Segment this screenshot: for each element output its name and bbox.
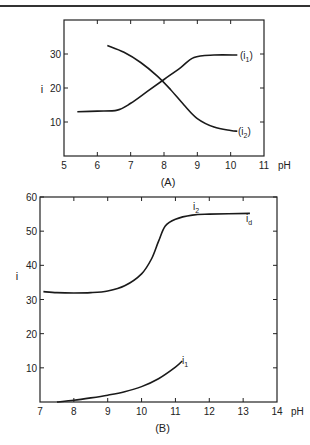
y-tick-label: 20 — [50, 83, 62, 94]
x-tick-label: 14 — [271, 406, 283, 417]
chart-title: (B) — [155, 422, 170, 434]
y-tick-label: 10 — [50, 117, 62, 128]
x-tick-label: 13 — [238, 406, 250, 417]
series-label-i1: (i1) — [240, 50, 253, 63]
y-axis-label: i — [41, 83, 43, 95]
y-tick-label: 30 — [26, 295, 38, 306]
plot-frame — [64, 20, 264, 156]
series-line-i1 — [77, 55, 237, 112]
series-line-i2 — [107, 46, 237, 132]
y-tick-label: 40 — [26, 260, 38, 271]
x-tick-label: 11 — [259, 160, 270, 171]
series-label-i1: i1 — [182, 355, 188, 368]
x-tick-label: 5 — [61, 160, 67, 171]
figure: 567891011pH102030i(A)(i1)(i2)78910111213… — [0, 0, 310, 445]
chart-a: 567891011pH102030i(A)(i1)(i2) — [41, 20, 291, 188]
plot-frame — [40, 197, 277, 402]
x-tick-label: 7 — [128, 160, 134, 171]
series-line-i2 — [43, 213, 250, 293]
x-tick-label: 9 — [105, 406, 111, 417]
y-tick-label: 20 — [26, 329, 38, 340]
x-tick-label: 8 — [71, 406, 77, 417]
chart-b: 7891011121314pH102030405060i(B)i2idi1 — [16, 192, 304, 434]
y-axis-label: i — [16, 270, 18, 282]
series-label-i2: (i2) — [238, 126, 251, 139]
y-tick-label: 30 — [50, 49, 62, 60]
x-tick-label: 12 — [204, 406, 216, 417]
chart-title: (A) — [161, 176, 176, 188]
y-tick-label: 10 — [26, 363, 38, 374]
x-tick-label: 9 — [195, 160, 201, 171]
y-tick-label: 50 — [26, 226, 38, 237]
x-tick-label: 10 — [136, 406, 148, 417]
x-tick-label: 10 — [225, 160, 237, 171]
series-label-i2: i2 — [193, 201, 199, 214]
x-axis-label: pH — [291, 406, 304, 417]
x-tick-label: 7 — [37, 406, 43, 417]
series-line-i1 — [57, 361, 182, 402]
y-tick-label: 60 — [26, 192, 38, 203]
x-axis-label: pH — [278, 160, 291, 171]
series-label-id: id — [246, 213, 252, 226]
x-tick-label: 11 — [170, 406, 181, 417]
x-tick-label: 8 — [161, 160, 167, 171]
x-tick-label: 6 — [95, 160, 101, 171]
